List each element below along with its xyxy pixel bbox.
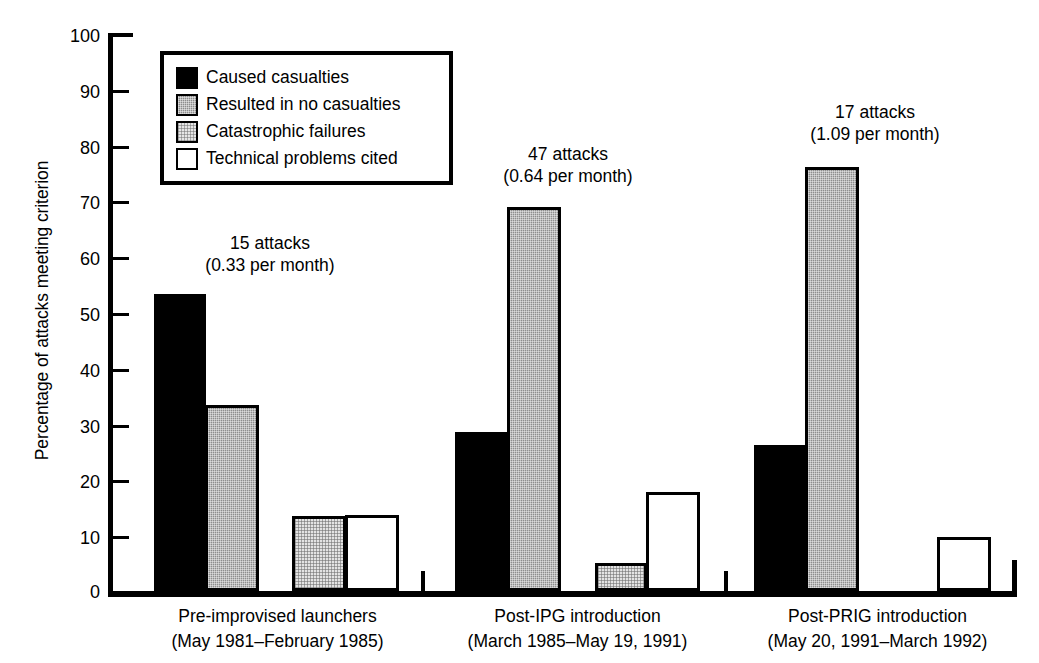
group2-annotation-line1: 47 attacks (468, 143, 668, 165)
group3-annotation-line1: 17 attacks (770, 101, 980, 123)
y-tick-label: 40 (46, 362, 100, 380)
x-axis-label-group1-line2: (May 1981–February 1985) (130, 629, 425, 654)
group2-annotation: 47 attacks (0.64 per month) (468, 143, 668, 187)
x-axis-label-group3-line2: (May 20, 1991–March 1992) (730, 629, 1025, 654)
y-axis-tick (113, 313, 129, 316)
y-axis-tick (113, 90, 129, 93)
legend-swatch-gray-icon (176, 94, 198, 116)
x-axis-label-group3-line1: Post-PRIG introduction (730, 604, 1025, 629)
bar-group1-no-casualties (205, 405, 259, 591)
y-axis-tick (113, 425, 129, 428)
y-tick-label: 10 (46, 529, 100, 547)
bar-chart: Percentage of attacks meeting criterion … (0, 0, 1039, 663)
bar-group1-caused-casualties (154, 294, 206, 591)
bar-group1-technical-problems (345, 515, 399, 591)
group3-annotation: 17 attacks (1.09 per month) (770, 101, 980, 145)
group-separator (421, 571, 425, 591)
y-axis-tick (113, 201, 129, 204)
bar-group3-technical-problems (937, 537, 991, 591)
x-axis-right-cap (1012, 560, 1017, 597)
group1-annotation-line2: (0.33 per month) (170, 254, 370, 276)
bar-group3-caused-casualties (754, 445, 806, 591)
x-axis-label-group1-line1: Pre-improvised launchers (130, 604, 425, 629)
y-tick-label: 50 (46, 306, 100, 324)
legend: Caused casualties Resulted in no casualt… (160, 51, 453, 185)
y-tick-label: 30 (46, 418, 100, 436)
x-axis-label-group2-line1: Post-IPG introduction (430, 604, 725, 629)
y-axis-tick (113, 257, 129, 260)
y-tick-label: 70 (46, 194, 100, 212)
group2-annotation-line2: (0.64 per month) (468, 165, 668, 187)
y-axis-tick (113, 33, 133, 37)
x-axis-line (108, 591, 1017, 597)
x-axis-label-group1: Pre-improvised launchers (May 1981–Febru… (130, 604, 425, 654)
bar-group2-technical-problems (646, 492, 700, 591)
y-axis-tick (113, 536, 129, 539)
y-axis-tick (113, 146, 129, 149)
legend-item-caused-casualties: Caused casualties (176, 64, 437, 91)
y-tick-label: 80 (46, 139, 100, 157)
group1-annotation-line1: 15 attacks (170, 232, 370, 254)
legend-label: Catastrophic failures (206, 122, 366, 141)
y-tick-label: 90 (46, 83, 100, 101)
bar-group1-catastrophic-failures (292, 516, 346, 591)
bar-group3-no-casualties (805, 167, 859, 591)
group1-annotation: 15 attacks (0.33 per month) (170, 232, 370, 276)
legend-swatch-light-gray-icon (176, 121, 198, 143)
legend-swatch-white-icon (176, 148, 198, 170)
y-tick-label: 60 (46, 250, 100, 268)
bar-group2-caused-casualties (455, 432, 508, 591)
bar-group2-no-casualties (507, 207, 561, 591)
legend-item-technical-problems: Technical problems cited (176, 145, 437, 172)
y-tick-label: 0 (46, 583, 100, 601)
group3-annotation-line2: (1.09 per month) (770, 123, 980, 145)
x-axis-label-group3: Post-PRIG introduction (May 20, 1991–Mar… (730, 604, 1025, 654)
legend-label: Caused casualties (206, 68, 349, 87)
legend-label: Technical problems cited (206, 149, 398, 168)
x-axis-label-group2-line2: (March 1985–May 19, 1991) (430, 629, 725, 654)
legend-swatch-black-icon (176, 67, 198, 89)
legend-label: Resulted in no casualties (206, 95, 401, 114)
x-axis-label-group2: Post-IPG introduction (March 1985–May 19… (430, 604, 725, 654)
legend-item-no-casualties: Resulted in no casualties (176, 91, 437, 118)
y-axis-tick (113, 369, 129, 372)
bar-group2-catastrophic-failures (595, 563, 647, 591)
y-axis-tick (113, 480, 129, 483)
legend-item-catastrophic-failures: Catastrophic failures (176, 118, 437, 145)
y-tick-label: 20 (46, 473, 100, 491)
group-separator (724, 571, 728, 591)
y-tick-label: 100 (46, 27, 100, 45)
